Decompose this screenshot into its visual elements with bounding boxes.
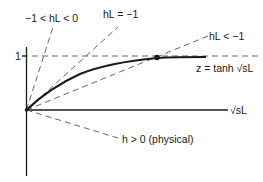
curve-label: z = tanh √sL: [196, 62, 254, 74]
intersection-point: [154, 55, 160, 61]
y-tick-label: 1: [15, 50, 21, 62]
label-lt-neg1: hL < −1: [209, 30, 244, 42]
line-lt-neg1: [27, 36, 209, 110]
label-eq-neg1: hL = −1: [103, 8, 138, 20]
label-neg1-to-0: −1 < hL < 0: [25, 12, 78, 24]
tanh-curve: [27, 57, 207, 110]
x-axis-label: √sL: [230, 104, 247, 116]
origin-point: [25, 108, 29, 112]
tanh-intersection-diagram: 1 √sL z = tanh √sL −1 < hL < 0 hL = −1 h…: [0, 0, 263, 182]
label-h-positive: h > 0 (physical): [122, 133, 194, 145]
line-h-positive: [27, 110, 122, 139]
